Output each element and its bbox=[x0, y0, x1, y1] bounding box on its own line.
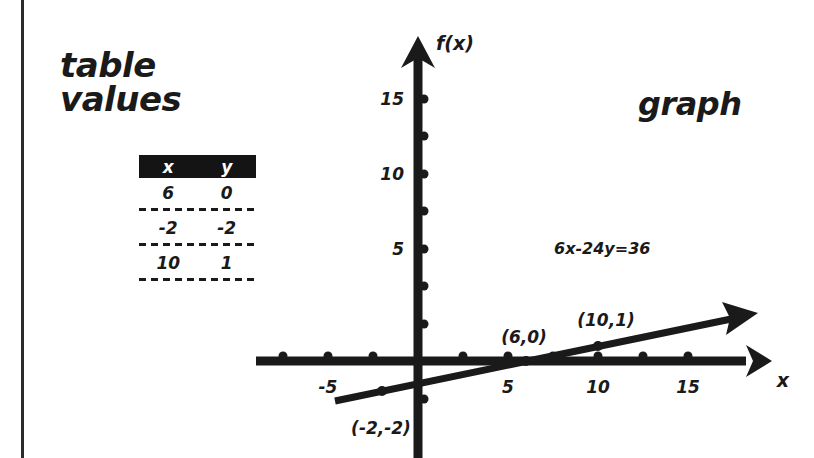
y-tick-label-15: 15 bbox=[380, 89, 404, 109]
table-row: -2 -2 bbox=[139, 213, 256, 243]
point-neg2-neg2 bbox=[377, 386, 387, 396]
y-axis-label: f(x) bbox=[436, 32, 474, 54]
y-tick-label-5: 5 bbox=[392, 239, 404, 259]
row-divider bbox=[139, 278, 256, 283]
y-axis bbox=[401, 36, 435, 458]
cell-x: 10 bbox=[139, 253, 198, 273]
table-header-row: x y bbox=[139, 155, 256, 178]
y-tick-label-10: 10 bbox=[380, 164, 404, 184]
x-axis-label: x bbox=[776, 369, 790, 391]
cell-x: -2 bbox=[139, 218, 198, 238]
worksheet-page: table values graph x y 6 0 -2 -2 10 1 bbox=[0, 0, 814, 458]
equation-label: 6x-24y=36 bbox=[554, 239, 650, 258]
point-10-1 bbox=[593, 341, 603, 351]
table-row: 10 1 bbox=[139, 248, 256, 278]
table-row: 6 0 bbox=[139, 178, 256, 208]
x-tick-label-10: 10 bbox=[586, 377, 610, 397]
coordinate-graph: -5 5 10 15 5 10 15 f(x) x 6x-24y=36 (6,0… bbox=[256, 10, 814, 458]
cell-y: -2 bbox=[198, 218, 257, 238]
column-header-y: y bbox=[198, 157, 257, 177]
cell-x: 6 bbox=[139, 183, 198, 203]
point-label-6-0: (6,0) bbox=[501, 327, 547, 347]
value-table: x y 6 0 -2 -2 10 1 bbox=[139, 155, 256, 283]
x-tick-label-15: 15 bbox=[676, 377, 700, 397]
column-header-x: x bbox=[139, 157, 198, 177]
point-label-neg2-neg2: (-2,-2) bbox=[351, 418, 411, 438]
left-margin-rule bbox=[21, 0, 24, 458]
cell-y: 0 bbox=[198, 183, 257, 203]
graph-svg: -5 5 10 15 5 10 15 f(x) x 6x-24y=36 (6,0… bbox=[256, 10, 814, 458]
point-label-10-1: (10,1) bbox=[577, 310, 634, 330]
cell-y: 1 bbox=[198, 253, 257, 273]
point-6-0 bbox=[521, 356, 531, 366]
x-tick-label-5: 5 bbox=[502, 377, 514, 397]
table-values-title: table values bbox=[60, 48, 181, 116]
x-tick-label-neg5: -5 bbox=[319, 377, 338, 397]
